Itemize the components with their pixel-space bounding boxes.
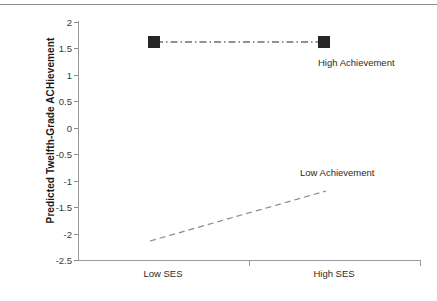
chart-figure: Predicted Twelfth-Grade ACHievement 2 1.… (0, 0, 437, 301)
series-annotation-high-achievement: High Achievement (318, 57, 395, 68)
series-line-low-achievement (150, 191, 326, 241)
series-marker-high-achievement-high-ses (318, 36, 330, 48)
series-marker-high-achievement-low-ses (148, 36, 160, 48)
series-annotation-low-achievement: Low Achievement (300, 167, 374, 178)
plot-area (0, 0, 437, 301)
